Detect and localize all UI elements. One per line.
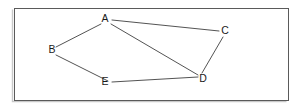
diagram-canvas: ABCDE bbox=[0, 0, 301, 107]
graph-node-label-d: D bbox=[199, 72, 207, 84]
frame-layer bbox=[13, 9, 289, 102]
graph-node-label-b: B bbox=[48, 43, 55, 55]
graph-node-label-c: C bbox=[221, 24, 229, 36]
graph-figure: ABCDE bbox=[0, 0, 301, 107]
diagram-border bbox=[15, 9, 289, 101]
graph-node-label-a: A bbox=[101, 12, 108, 24]
graph-node-label-e: E bbox=[101, 75, 108, 87]
